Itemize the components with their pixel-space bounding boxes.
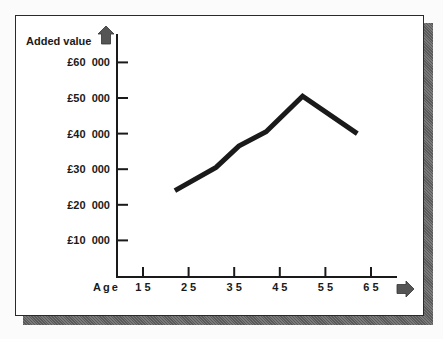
y-tick-label: £30 000 xyxy=(67,163,110,175)
y-ticks: £10 000£20 000£30 000£40 000£50 000£60 0… xyxy=(67,56,128,246)
y-tick-label: £40 000 xyxy=(67,128,110,140)
x-tick-label: 1 5 xyxy=(135,281,150,293)
x-tick-label: 3 5 xyxy=(227,281,242,293)
up-arrow-icon xyxy=(98,26,114,44)
y-tick-label: £20 000 xyxy=(67,199,110,211)
x-tick-label: 5 5 xyxy=(318,281,333,293)
x-tick-label: 4 5 xyxy=(272,281,287,293)
chart-svg: £10 000£20 000£30 000£40 000£50 000£60 0… xyxy=(0,0,443,339)
right-arrow-icon xyxy=(397,281,414,297)
y-axis-title: Added value xyxy=(26,35,91,47)
added-value-line xyxy=(175,96,357,190)
x-tick-label: 2 5 xyxy=(181,281,196,293)
y-tick-label: £60 000 xyxy=(67,56,110,68)
x-ticks: 1 52 53 54 55 56 5 xyxy=(135,267,378,293)
x-tick-label: 6 5 xyxy=(363,281,378,293)
x-axis-title: Age xyxy=(93,281,120,293)
y-tick-label: £50 000 xyxy=(67,92,110,104)
y-tick-label: £10 000 xyxy=(67,234,110,246)
